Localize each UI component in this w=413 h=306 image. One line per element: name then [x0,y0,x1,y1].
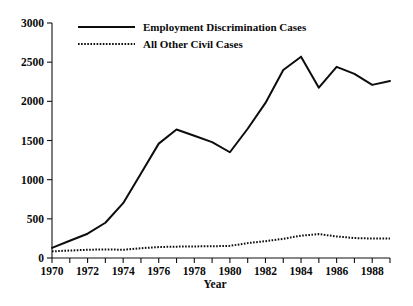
y-tick-label-0: 0 [38,252,44,264]
line-chart-figure: 050010001500200025003000 197019721974197… [0,0,413,306]
data-series-layer [52,57,390,252]
x-tick-label-1978: 1978 [183,265,206,277]
x-axis-ticks: 1970197219741976197819801982198419861988 [41,258,391,277]
series-line-all-other-civil-cases [52,234,390,251]
legend-label-all-other-civil-cases: All Other Civil Cases [143,38,243,50]
x-tick-label-1982: 1982 [254,265,277,277]
chart-canvas: 050010001500200025003000 197019721974197… [0,0,413,306]
legend-label-employment-discrimination-cases: Employment Discrimination Cases [143,21,307,33]
x-axis-title: Year [204,278,227,290]
y-tick-label-3000: 3000 [21,17,44,29]
y-tick-label-2000: 2000 [21,95,44,107]
x-tick-label-1972: 1972 [76,265,99,277]
y-tick-label-1000: 1000 [21,174,44,186]
x-tick-label-1986: 1986 [325,265,348,277]
x-tick-label-1976: 1976 [147,265,170,277]
x-tick-label-1988: 1988 [361,265,384,277]
series-line-employment-discrimination-cases [52,57,390,248]
y-tick-label-1500: 1500 [21,135,44,147]
x-tick-label-1980: 1980 [218,265,241,277]
x-tick-label-1984: 1984 [290,265,313,277]
y-tick-label-2500: 2500 [21,56,44,68]
y-tick-label-500: 500 [27,213,45,225]
x-tick-label-1970: 1970 [41,265,64,277]
x-tick-label-1974: 1974 [112,265,135,277]
y-axis-ticks: 050010001500200025003000 [21,17,52,264]
chart-legend: Employment Discrimination Cases All Othe… [78,21,307,50]
